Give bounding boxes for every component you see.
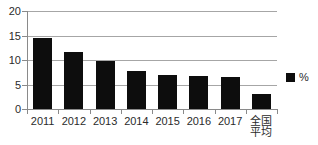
x-tick-mark: [277, 109, 278, 114]
bar: [158, 75, 177, 109]
x-tick-label: 2017: [218, 116, 242, 127]
x-tick-label: 2015: [155, 116, 179, 127]
bar-series: [27, 11, 277, 109]
bar-chart: 20151050 2011201220132014201520162017全国 …: [0, 0, 318, 145]
x-tick-label: 全国 平均: [250, 116, 272, 138]
y-tick-mark: [22, 11, 28, 12]
y-tick-mark: [22, 36, 28, 37]
bar: [127, 71, 146, 109]
legend-swatch-percent: [286, 73, 295, 82]
plot-area: [27, 11, 277, 109]
y-tick-label: 0: [1, 104, 21, 115]
chart-legend: %: [286, 72, 309, 83]
y-tick-label: 20: [1, 6, 21, 17]
x-tick-mark: [58, 109, 59, 114]
y-tick-label: 15: [1, 30, 21, 41]
y-tick-mark: [22, 60, 28, 61]
y-tick-mark: [22, 85, 28, 86]
x-tick-label: 2016: [187, 116, 211, 127]
x-tick-mark: [90, 109, 91, 114]
x-tick-label: 2011: [31, 116, 55, 127]
x-tick-mark: [121, 109, 122, 114]
bar: [221, 77, 240, 109]
x-tick-mark: [246, 109, 247, 114]
bar: [33, 38, 52, 109]
x-tick-label: 2013: [93, 116, 117, 127]
x-tick-label: 2012: [62, 116, 86, 127]
legend-label-percent: %: [299, 72, 309, 83]
bar: [96, 61, 115, 109]
x-tick-label: 2014: [124, 116, 148, 127]
y-axis-labels: 20151050: [0, 0, 21, 145]
y-tick-label: 10: [1, 55, 21, 66]
x-tick-mark: [183, 109, 184, 114]
bar: [189, 76, 208, 109]
y-tick-label: 5: [1, 79, 21, 90]
x-tick-mark: [27, 109, 28, 114]
x-tick-mark: [215, 109, 216, 114]
bar: [252, 94, 271, 109]
x-tick-mark: [152, 109, 153, 114]
bar: [64, 52, 83, 109]
